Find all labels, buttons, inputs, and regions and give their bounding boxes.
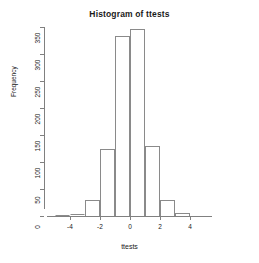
x-axis-title: ttests <box>0 243 259 250</box>
histogram-bar <box>85 200 100 216</box>
histogram-bar <box>130 29 145 216</box>
histogram-bars <box>0 0 259 263</box>
histogram-bar <box>55 215 70 216</box>
histogram-bar <box>175 213 190 216</box>
histogram-bar <box>160 200 175 216</box>
histogram-bar <box>100 149 115 217</box>
histogram-plot: Histogram of ttests 05010015020025030035… <box>0 0 259 263</box>
histogram-bar <box>115 36 130 216</box>
histogram-bar <box>70 214 85 216</box>
y-axis-title: Frequency <box>10 37 17 97</box>
histogram-bar <box>145 146 160 216</box>
